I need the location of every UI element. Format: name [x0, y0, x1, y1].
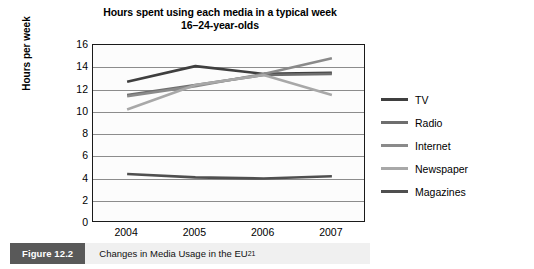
- figure-number-badge: Figure 12.2: [10, 243, 85, 264]
- legend-label: TV: [415, 94, 428, 106]
- x-tick-label: 2006: [251, 226, 274, 238]
- y-axis-tick-labels: 1614121086420: [58, 44, 88, 222]
- legend-swatch-icon: [381, 190, 408, 193]
- x-tick-label: 2005: [183, 226, 206, 238]
- y-tick-label: 8: [58, 128, 88, 139]
- legend-item-radio[interactable]: Radio: [381, 111, 529, 134]
- x-axis-tick-labels: 2004200520062007: [92, 226, 365, 242]
- chart-legend: TVRadioInternetNewspaperMagazines: [381, 88, 529, 203]
- y-tick-label: 12: [58, 83, 88, 94]
- legend-swatch-icon: [381, 121, 408, 124]
- figure-caption: Figure 12.2 Changes in Media Usage in th…: [10, 243, 370, 264]
- chart-title: Hours spent using each media in a typica…: [60, 6, 380, 32]
- y-tick-label: 2: [58, 194, 88, 205]
- figure-media-usage: Hours spent using each media in a typica…: [0, 0, 534, 269]
- legend-label: Newspaper: [415, 163, 468, 175]
- y-tick-label: 0: [58, 217, 88, 228]
- chart-title-line1: Hours spent using each media in a typica…: [103, 6, 336, 18]
- series-line-magazines: [127, 174, 332, 178]
- plot-area: [92, 44, 365, 222]
- series-line-internet: [127, 58, 332, 96]
- y-tick-label: 10: [58, 105, 88, 116]
- legend-item-tv[interactable]: TV: [381, 88, 529, 111]
- y-axis-title: Hours per week: [21, 0, 32, 114]
- legend-swatch-icon: [381, 144, 408, 147]
- figure-caption-label: Changes in Media Usage in the EU: [99, 248, 247, 259]
- x-tick-label: 2004: [114, 226, 137, 238]
- legend-label: Radio: [415, 117, 442, 129]
- legend-swatch-icon: [381, 98, 408, 101]
- figure-caption-text: Changes in Media Usage in the EU21: [85, 243, 370, 264]
- y-tick-label: 14: [58, 61, 88, 72]
- y-tick-label: 4: [58, 172, 88, 183]
- legend-label: Magazines: [415, 186, 466, 198]
- x-tick-label: 2007: [319, 226, 342, 238]
- legend-item-magazines[interactable]: Magazines: [381, 180, 529, 203]
- chart-title-line2: 16–24-year-olds: [60, 19, 380, 32]
- legend-item-newspaper[interactable]: Newspaper: [381, 157, 529, 180]
- legend-swatch-icon: [381, 167, 408, 170]
- y-tick-label: 16: [58, 39, 88, 50]
- y-tick-label: 6: [58, 150, 88, 161]
- legend-label: Internet: [415, 140, 451, 152]
- series-lines: [93, 45, 366, 223]
- legend-item-internet[interactable]: Internet: [381, 134, 529, 157]
